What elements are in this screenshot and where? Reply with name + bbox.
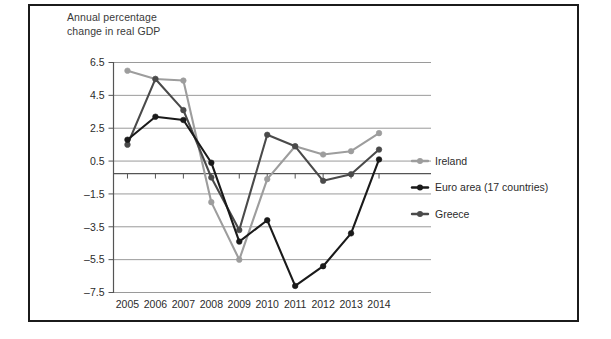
legend-item-ireland[interactable]: Ireland: [412, 155, 467, 167]
data-point: [264, 217, 270, 223]
data-point: [209, 160, 215, 166]
data-point: [181, 117, 187, 123]
series-line: [127, 117, 379, 286]
data-point: [320, 178, 326, 184]
legend-swatch-marker: [417, 185, 423, 191]
data-point: [236, 257, 242, 263]
ytick-label: –1.5: [84, 188, 105, 200]
data-point: [209, 199, 215, 205]
data-point: [125, 137, 131, 143]
data-point: [153, 76, 159, 82]
data-point: [320, 152, 326, 158]
xtick-label: 2005: [116, 298, 140, 310]
xtick-label: 2007: [172, 298, 196, 310]
ytick-label: 2.5: [90, 122, 105, 134]
data-point: [236, 239, 242, 245]
xtick-label: 2012: [311, 298, 335, 310]
data-point: [376, 130, 382, 136]
data-point: [292, 143, 298, 149]
data-point: [209, 175, 215, 181]
chart-page: Annual percentage change in real GDP 6.5…: [0, 0, 611, 339]
series-ireland: [125, 68, 382, 263]
data-point: [264, 176, 270, 182]
data-point: [292, 283, 298, 289]
xtick-label: 2013: [339, 298, 363, 310]
legend-label: Greece: [435, 208, 470, 220]
ytick-label: 6.5: [90, 56, 105, 68]
xtick-label: 2011: [284, 298, 307, 310]
plot-area: 6.54.52.50.5–1.5–3.5–5.5–7.5200520062007…: [0, 0, 611, 339]
legend-swatch-marker: [417, 211, 423, 217]
data-point: [181, 78, 187, 84]
ytick-label: 0.5: [90, 155, 105, 167]
ytick-label: 4.5: [90, 89, 105, 101]
ytick-label: –3.5: [84, 221, 105, 233]
ytick-label: –5.5: [84, 253, 105, 265]
data-point: [264, 132, 270, 138]
data-point: [320, 263, 326, 269]
xtick-label: 2009: [228, 298, 252, 310]
xtick-label: 2014: [367, 298, 391, 310]
series-euro-area-17-countries: [125, 114, 382, 289]
data-point: [153, 114, 159, 120]
series-line: [127, 79, 379, 230]
data-point: [236, 227, 242, 233]
data-point: [376, 157, 382, 163]
legend-label: Ireland: [435, 155, 467, 167]
data-point: [181, 107, 187, 113]
series-greece: [125, 76, 382, 233]
legend-item-euro-area-17-countries[interactable]: Euro area (17 countries): [412, 181, 548, 193]
data-point: [376, 147, 382, 153]
data-point: [125, 68, 131, 74]
legend-item-greece[interactable]: Greece: [412, 208, 470, 220]
legend-label: Euro area (17 countries): [435, 181, 548, 193]
xtick-label: 2008: [200, 298, 224, 310]
line-chart: 6.54.52.50.5–1.5–3.5–5.5–7.5200520062007…: [0, 0, 611, 339]
xtick-label: 2006: [144, 298, 168, 310]
xtick-label: 2010: [256, 298, 280, 310]
legend-swatch-marker: [417, 158, 423, 164]
data-point: [348, 148, 354, 154]
ytick-label: –7.5: [84, 286, 105, 298]
data-point: [348, 231, 354, 237]
data-point: [348, 171, 354, 177]
